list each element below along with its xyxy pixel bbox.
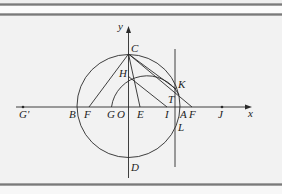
label-T: T (168, 93, 175, 105)
label-F-right: F (188, 108, 196, 120)
x-axis-label: x (247, 107, 253, 119)
label-O: O (117, 108, 125, 120)
label-D: D (130, 161, 139, 173)
label-G-prime: G' (19, 108, 30, 120)
label-I: I (164, 108, 170, 120)
segment-CK (129, 54, 177, 89)
label-B: B (69, 108, 76, 120)
label-G: G (107, 108, 115, 120)
label-J: J (218, 108, 224, 120)
label-E: E (136, 108, 144, 120)
y-axis-label: y (117, 20, 123, 32)
geometry-diagram: y x C H K T L D G' B F G O E I A F J (0, 0, 282, 194)
label-H: H (118, 67, 128, 79)
label-F-left: F (83, 108, 91, 120)
label-K: K (177, 78, 186, 90)
y-axis-arrow-icon (126, 26, 131, 33)
label-C: C (131, 42, 139, 54)
segment-CF-left (89, 54, 129, 107)
label-A: A (179, 108, 187, 120)
label-L: L (177, 121, 184, 133)
